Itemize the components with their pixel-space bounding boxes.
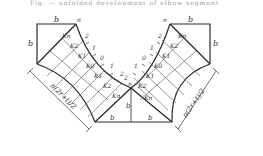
label-b-right-side: b — [213, 39, 218, 48]
svg-text:Kn: Kn — [111, 92, 120, 99]
left-dimension-line — [27, 68, 92, 132]
svg-text:K1: K1 — [145, 72, 154, 79]
label-b-right-top: b — [188, 15, 193, 24]
left-grid-lines — [47, 38, 121, 117]
svg-text:Kn: Kn — [61, 32, 70, 39]
svg-text:Kn: Kn — [177, 32, 186, 39]
svg-text:K2: K2 — [69, 42, 78, 49]
svg-text:1: 1 — [92, 44, 96, 51]
label-b-left-side: b — [28, 39, 33, 48]
svg-text:K1: K1 — [77, 52, 86, 59]
label-n-left: n — [77, 16, 81, 23]
svg-text:1: 1 — [110, 62, 114, 69]
svg-text:K0: K0 — [85, 62, 94, 69]
label-n-right: n — [163, 16, 167, 23]
svg-text:K1: K1 — [161, 52, 170, 59]
svg-text:2: 2 — [157, 32, 162, 39]
center-triangle — [95, 88, 172, 122]
svg-text:K2: K2 — [137, 82, 146, 89]
svg-text:1: 1 — [150, 44, 154, 51]
label-b-center-right: b — [148, 114, 153, 122]
label-b-center-vertical: b — [126, 102, 131, 110]
svg-text:0: 0 — [142, 54, 146, 61]
label-arc-length-right: π(2r+t)/2 — [181, 87, 208, 120]
svg-text:1: 1 — [134, 62, 138, 69]
svg-text:2: 2 — [84, 32, 89, 39]
svg-text:K2: K2 — [169, 42, 178, 49]
svg-text:2: 2 — [123, 74, 128, 81]
label-n-center: n — [128, 80, 132, 87]
svg-text:0: 0 — [100, 54, 104, 61]
svg-text:K0: K0 — [153, 62, 162, 69]
svg-text:Kn: Kn — [143, 94, 152, 101]
svg-text:K2: K2 — [102, 82, 111, 89]
label-b-center-left: b — [110, 114, 115, 122]
svg-text:K1: K1 — [93, 72, 102, 79]
label-b-left-top: b — [54, 15, 59, 24]
elbow-development-diagram: b b n b b n n b b b Kn K2 K1 K0 K1 K2 Kn… — [0, 0, 263, 156]
